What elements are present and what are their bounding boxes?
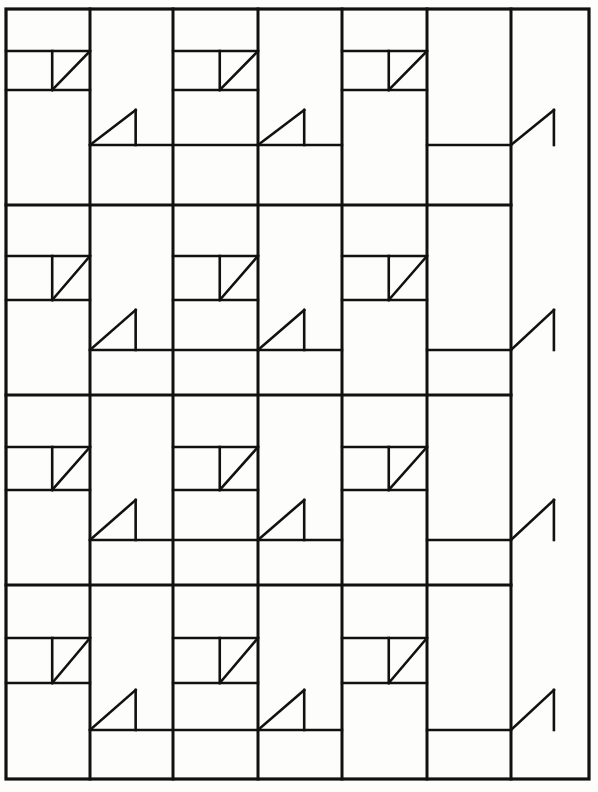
- geometric-pattern-figure: [0, 0, 598, 792]
